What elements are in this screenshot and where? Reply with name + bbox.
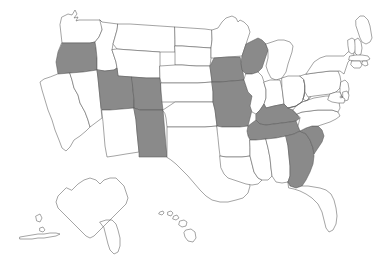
- state-alaska[interactable]: [20, 178, 128, 254]
- state-arizona[interactable]: [102, 108, 139, 157]
- state-hawaii[interactable]: [159, 211, 196, 242]
- state-shapes: [20, 10, 372, 254]
- state-montana[interactable]: [113, 24, 175, 52]
- state-wyoming[interactable]: [112, 49, 160, 78]
- state-new-hampshire[interactable]: [355, 38, 362, 56]
- state-rhode-island[interactable]: [362, 61, 368, 66]
- state-oregon[interactable]: [56, 42, 97, 74]
- state-new-mexico[interactable]: [134, 108, 167, 157]
- state-colorado[interactable]: [132, 77, 163, 110]
- state-oklahoma[interactable]: [163, 102, 217, 127]
- state-new-york[interactable]: [306, 50, 354, 74]
- state-florida[interactable]: [288, 182, 337, 232]
- state-iowa[interactable]: [210, 57, 244, 82]
- state-arkansas[interactable]: [217, 126, 250, 157]
- state-kansas[interactable]: [161, 82, 213, 102]
- state-south-dakota[interactable]: [175, 46, 211, 66]
- state-nebraska[interactable]: [160, 65, 212, 83]
- state-north-dakota[interactable]: [175, 27, 212, 48]
- state-indiana[interactable]: [264, 80, 284, 108]
- state-connecticut[interactable]: [351, 61, 362, 68]
- us-choropleth-map: [0, 0, 385, 266]
- state-washington[interactable]: [60, 10, 102, 43]
- state-michigan[interactable]: [266, 40, 293, 80]
- state-massachusetts[interactable]: [349, 55, 370, 61]
- us-map-svg: [0, 0, 385, 266]
- state-district-of-columbia[interactable]: [340, 96, 342, 98]
